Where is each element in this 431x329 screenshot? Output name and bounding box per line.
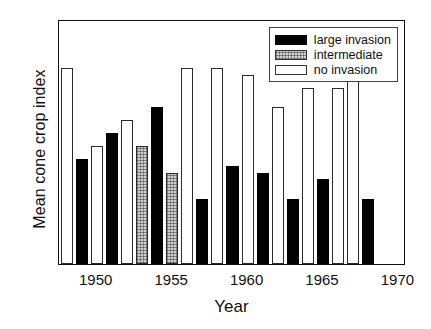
x-tick-1950 <box>97 264 98 265</box>
bar-1968-large <box>362 199 374 264</box>
bar-1951-large <box>106 133 118 264</box>
x-tick-label-1965: 1965 <box>305 271 338 288</box>
y-axis-title: Mean cone crop index <box>31 24 49 274</box>
x-tick-1965 <box>323 264 324 265</box>
bar-1956-none <box>181 68 193 264</box>
bar-1954-large <box>151 107 163 264</box>
bar-1948-none <box>61 68 73 264</box>
x-tick-label-1960: 1960 <box>230 271 263 288</box>
x-axis-title: Year <box>58 297 405 317</box>
bar-1962-none <box>272 107 284 264</box>
y-tick-1: 1 <box>58 201 59 202</box>
legend-label-none: no invasion <box>314 63 377 77</box>
bar-1955-inter <box>166 173 178 264</box>
legend-item-large: large invasion <box>275 32 391 47</box>
x-tick-label-1950: 1950 <box>79 271 112 288</box>
x-tick-label-1955: 1955 <box>154 271 187 288</box>
legend-label-inter: intermediate <box>314 48 383 62</box>
legend-item-inter: intermediate <box>275 47 391 62</box>
y-tick-3: 3 <box>58 70 59 71</box>
bar-1961-large <box>257 173 269 264</box>
legend: large invasionintermediateno invasion <box>269 27 398 82</box>
bar-1965-large <box>317 179 329 264</box>
bar-1963-large <box>287 199 299 264</box>
bar-1950-none <box>91 146 103 264</box>
legend-swatch-inter <box>275 50 307 60</box>
bar-1958-none <box>211 68 223 264</box>
bar-1952-none <box>121 120 133 264</box>
bar-1959-large <box>226 166 238 264</box>
legend-label-large: large invasion <box>314 33 391 47</box>
legend-swatch-large <box>275 35 307 45</box>
bar-1960-none <box>242 75 254 264</box>
x-tick-1970 <box>398 264 399 265</box>
legend-item-none: no invasion <box>275 62 391 77</box>
y-tick-2: 2 <box>58 135 59 136</box>
bar-1964-none <box>302 88 314 264</box>
legend-swatch-none <box>275 65 307 75</box>
x-tick-label-1970: 1970 <box>381 271 414 288</box>
bar-1953-inter <box>136 146 148 264</box>
bar-1957-large <box>196 199 208 264</box>
plot-area: 0123 large invasionintermediateno invasi… <box>58 20 405 265</box>
bar-1966-none <box>332 88 344 264</box>
bar-chart-figure: Mean cone crop index 0123 large invasion… <box>0 0 431 329</box>
x-tick-1955 <box>172 264 173 265</box>
bar-1967-none <box>347 68 359 264</box>
x-tick-1960 <box>248 264 249 265</box>
bar-1949-large <box>76 159 88 264</box>
